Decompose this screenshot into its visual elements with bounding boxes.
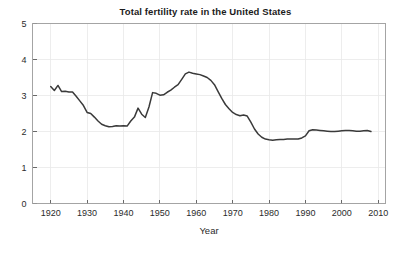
- chart-figure: Total fertility rate in the United State…: [0, 0, 411, 253]
- y-axis-tick-labels: 012345: [21, 19, 26, 209]
- x-tick-label: 1990: [295, 208, 315, 218]
- y-tick-label: 3: [21, 91, 26, 101]
- x-tick-label: 2000: [332, 208, 352, 218]
- y-tick-label: 0: [21, 199, 26, 209]
- x-tick-label: 1970: [223, 208, 243, 218]
- fertility-rate-line: [51, 72, 371, 140]
- tick-marks-group: [33, 24, 379, 204]
- x-tick-label: 1940: [113, 208, 133, 218]
- y-tick-label: 2: [21, 127, 26, 137]
- x-axis-title: Year: [199, 225, 218, 236]
- gridlines-group: [33, 24, 386, 204]
- y-tick-label: 5: [21, 19, 26, 29]
- line-chart-plot: 1920193019401950196019701980199020002010…: [0, 0, 411, 253]
- x-axis-tick-labels: 1920193019401950196019701980199020002010: [41, 208, 389, 218]
- x-tick-label: 1960: [186, 208, 206, 218]
- x-tick-label: 1950: [150, 208, 170, 218]
- x-tick-label: 1980: [259, 208, 279, 218]
- x-tick-label: 1930: [77, 208, 97, 218]
- y-tick-label: 4: [21, 55, 26, 65]
- y-tick-label: 1: [21, 163, 26, 173]
- plot-frame: [33, 24, 386, 204]
- x-tick-label: 2010: [368, 208, 388, 218]
- x-tick-label: 1920: [41, 208, 61, 218]
